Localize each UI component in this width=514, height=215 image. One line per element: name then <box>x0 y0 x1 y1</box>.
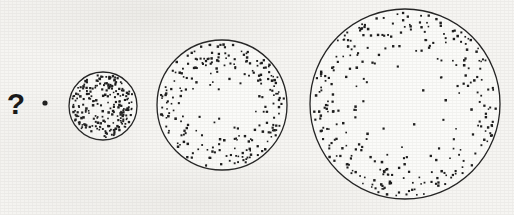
stipple-dot <box>273 117 275 119</box>
stipple-dot <box>187 55 189 57</box>
stipple-dot <box>259 79 261 81</box>
stipple-dot <box>471 164 473 166</box>
stipple-dot <box>236 139 238 141</box>
stipple-dot <box>82 116 85 119</box>
stipple-dot <box>458 92 460 94</box>
stipple-dot <box>261 150 263 152</box>
stipple-dot <box>362 34 364 36</box>
stipple-dot <box>186 156 188 158</box>
stipple-dot <box>234 58 236 60</box>
stipple-dot <box>478 60 480 62</box>
stipple-dot <box>165 86 167 88</box>
stipple-dot <box>105 76 107 78</box>
stipple-dot <box>278 91 280 93</box>
stipple-dot <box>194 51 196 53</box>
stipple-dot <box>320 75 322 77</box>
stipple-dot <box>403 157 405 159</box>
stipple-dot <box>440 76 442 78</box>
stipple-dot <box>214 122 216 124</box>
stipple-dot <box>88 93 90 95</box>
stipple-dot <box>179 87 181 89</box>
stipple-dot <box>179 144 181 146</box>
stipple-dot <box>179 71 182 74</box>
stipple-dot <box>242 156 244 158</box>
stipple-dot <box>330 83 332 85</box>
stipple-dot <box>186 77 188 79</box>
stipple-dot <box>456 35 459 38</box>
stipple-dot <box>201 134 203 136</box>
stipple-dot <box>98 129 100 131</box>
stipple-dot <box>122 94 124 96</box>
stipple-dot <box>322 127 324 129</box>
stipple-dot <box>209 44 211 46</box>
stipple-dot <box>445 37 447 39</box>
stipple-dot <box>445 175 447 177</box>
stipple-dot <box>371 62 373 64</box>
stipple-dot <box>75 93 77 95</box>
stipple-dot <box>78 106 80 108</box>
stipple-dot <box>83 84 85 86</box>
stipple-dot <box>195 81 197 83</box>
stipple-dot <box>443 33 445 35</box>
stipple-dot <box>354 116 356 118</box>
stipple-dot <box>124 99 126 101</box>
stipple-dot <box>358 27 360 29</box>
stipple-dot <box>88 110 90 112</box>
stipple-dot <box>379 169 381 171</box>
stipple-dot <box>72 111 74 113</box>
stipple-dot <box>180 134 182 136</box>
stipple-dot <box>315 94 318 97</box>
stipple-dot <box>460 149 462 151</box>
stipple-dot <box>328 77 330 79</box>
stipple-dot <box>266 111 268 113</box>
stipple-dot <box>217 45 219 47</box>
stipple-dot <box>268 131 270 133</box>
stipple-dot <box>458 154 460 156</box>
stipple-dot <box>442 119 444 121</box>
stipple-dot <box>452 30 454 32</box>
stipple-dot <box>249 157 251 159</box>
stipple-dot <box>113 79 115 81</box>
stipple-dot <box>319 91 321 93</box>
stipple-dot <box>326 108 328 110</box>
stipple-dot <box>366 133 369 136</box>
stipple-dot <box>272 76 274 78</box>
stipple-dot <box>398 191 400 193</box>
stipple-dot <box>125 126 127 128</box>
stipple-dot <box>354 105 356 107</box>
stipple-dot <box>76 98 78 100</box>
stipple-dot <box>246 60 248 62</box>
stipple-dot <box>453 148 455 150</box>
stipple-dot <box>123 108 125 110</box>
stipple-dot <box>117 119 119 121</box>
stipple-dot <box>243 54 245 56</box>
stipple-dot <box>404 26 406 28</box>
stipple-dot <box>392 45 394 47</box>
stipple-dot <box>120 95 122 97</box>
stipple-dot <box>208 157 210 159</box>
stipple-dot <box>170 88 172 90</box>
stipple-dot <box>462 166 464 168</box>
stipple-dot <box>440 60 442 62</box>
stipple-dot <box>107 95 109 97</box>
stipple-dot <box>314 119 316 121</box>
stipple-dot <box>90 130 92 132</box>
stipple-dot <box>373 179 375 181</box>
stipple-dot <box>228 55 230 57</box>
stipple-dot <box>128 106 130 108</box>
stipple-dot <box>466 48 468 50</box>
stipple-dot <box>113 92 115 94</box>
stipple-dot <box>275 82 277 84</box>
stipple-dot <box>177 145 179 147</box>
stipple-dot <box>218 118 220 120</box>
stipple-dot <box>111 87 113 89</box>
stipple-dot <box>460 41 462 43</box>
stipple-dot <box>479 101 481 103</box>
stipple-dot <box>320 114 322 116</box>
stipple-dot <box>84 123 87 126</box>
stipple-dot <box>346 145 348 147</box>
stipple-dot <box>408 171 410 173</box>
stipple-dot <box>440 25 442 27</box>
stipple-dot <box>235 155 237 157</box>
stipple-dot <box>381 161 384 164</box>
